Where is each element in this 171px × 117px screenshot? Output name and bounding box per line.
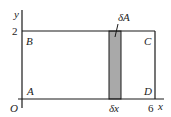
x-axis-label: x bbox=[157, 100, 163, 112]
shaded-strip bbox=[109, 31, 121, 99]
y-axis-label: y bbox=[13, 8, 19, 20]
corner-label-b: B bbox=[26, 35, 33, 47]
rectangle-area-diagram: y 2 B C A D O δA δx 6 x bbox=[0, 0, 171, 117]
y-tick-label: 2 bbox=[12, 25, 18, 37]
corner-label-a: A bbox=[26, 85, 34, 97]
corner-label-d: D bbox=[143, 85, 152, 97]
corner-label-c: C bbox=[144, 35, 152, 47]
strip-width-label: δx bbox=[109, 102, 119, 114]
x-tick-label: 6 bbox=[148, 102, 154, 114]
origin-label: O bbox=[10, 102, 18, 114]
strip-area-label: δA bbox=[118, 11, 130, 23]
